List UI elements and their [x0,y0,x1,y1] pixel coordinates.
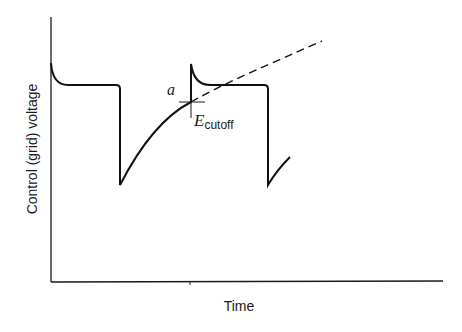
e-cutoff-label: Ecutoff [193,111,234,132]
x-axis-label: Time [224,298,255,314]
waveform-dashed-continuation [191,41,322,102]
grid-voltage-diagram: a Ecutoff Control (grid) voltage Time [0,0,462,332]
y-axis-label: Control (grid) voltage [24,83,40,214]
x-axis [51,281,443,282]
point-a-label: a [167,81,175,98]
